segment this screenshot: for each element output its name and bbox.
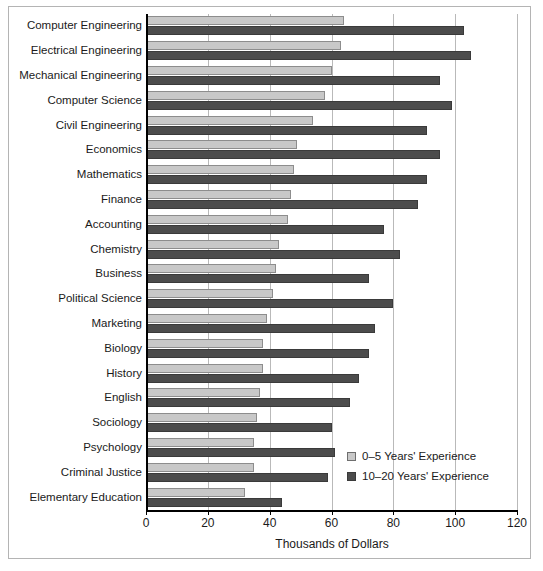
gridline (393, 14, 394, 510)
bar-10-20-years (146, 51, 471, 60)
legend-item: 10–20 Years' Experience (347, 466, 517, 486)
bar-10-20-years (146, 225, 384, 234)
bar-10-20-years (146, 250, 400, 259)
y-axis-category-label: Biology (0, 342, 142, 354)
bar-10-20-years (146, 274, 369, 283)
y-axis-category-label: Finance (0, 193, 142, 205)
bar-0-5-years (146, 339, 263, 348)
y-axis-line (146, 14, 148, 511)
bar-row (146, 165, 517, 185)
x-tick-label: 100 (445, 516, 465, 530)
bar-row (146, 413, 517, 433)
tick-mark (208, 510, 209, 515)
tick-mark (393, 510, 394, 515)
bar-row (146, 240, 517, 260)
x-tick-label: 40 (263, 516, 276, 530)
bar-0-5-years (146, 463, 254, 472)
gridline (517, 14, 518, 510)
bar-row (146, 140, 517, 160)
plot-area (146, 14, 517, 510)
bar-0-5-years (146, 488, 245, 497)
gridline (455, 14, 456, 510)
y-axis-category-label: Mathematics (0, 168, 142, 180)
bar-10-20-years (146, 175, 427, 184)
y-axis-category-label: Civil Engineering (0, 119, 142, 131)
bar-0-5-years (146, 240, 279, 249)
bar-0-5-years (146, 41, 341, 50)
bar-10-20-years (146, 423, 332, 432)
bar-10-20-years (146, 374, 359, 383)
y-axis-category-label: Computer Science (0, 94, 142, 106)
y-axis-category-label: Chemistry (0, 243, 142, 255)
tick-mark (332, 510, 333, 515)
bar-0-5-years (146, 314, 267, 323)
y-axis-category-label: Economics (0, 143, 142, 155)
x-axis-tick-labels: 020406080100120 (0, 516, 543, 532)
bar-0-5-years (146, 91, 325, 100)
bar-10-20-years (146, 324, 375, 333)
bar-10-20-years (146, 101, 452, 110)
bar-10-20-years (146, 398, 350, 407)
y-axis-category-label: Computer Engineering (0, 19, 142, 31)
bar-0-5-years (146, 215, 288, 224)
legend-swatch-dark-icon (347, 472, 356, 481)
x-tick-label: 20 (201, 516, 214, 530)
y-axis-category-label: History (0, 367, 142, 379)
bar-row (146, 41, 517, 61)
y-axis-category-label: Marketing (0, 317, 142, 329)
bar-0-5-years (146, 264, 276, 273)
gridline (270, 14, 271, 510)
x-tick-label: 0 (143, 516, 150, 530)
bar-10-20-years (146, 498, 282, 507)
bar-row (146, 264, 517, 284)
bar-row (146, 91, 517, 111)
bar-row (146, 388, 517, 408)
bar-0-5-years (146, 190, 291, 199)
x-tick-label: 120 (507, 516, 527, 530)
bar-0-5-years (146, 66, 332, 75)
salary-by-major-bar-chart: Computer EngineeringElectrical Engineeri… (0, 0, 543, 571)
bar-0-5-years (146, 413, 257, 422)
bar-row (146, 314, 517, 334)
bar-10-20-years (146, 150, 440, 159)
bar-10-20-years (146, 299, 393, 308)
y-axis-category-label: Electrical Engineering (0, 44, 142, 56)
bar-10-20-years (146, 26, 464, 35)
bar-row (146, 488, 517, 508)
y-axis-category-label: Elementary Education (0, 491, 142, 503)
bar-0-5-years (146, 438, 254, 447)
y-axis-category-label: Criminal Justice (0, 466, 142, 478)
bar-row (146, 289, 517, 309)
legend-swatch-light-icon (347, 452, 356, 461)
bar-0-5-years (146, 289, 273, 298)
bar-10-20-years (146, 200, 418, 209)
bar-row (146, 116, 517, 136)
bar-10-20-years (146, 76, 440, 85)
y-axis-category-labels: Computer EngineeringElectrical Engineeri… (0, 14, 142, 510)
bar-10-20-years (146, 349, 369, 358)
y-axis-category-label: Psychology (0, 441, 142, 453)
bar-10-20-years (146, 126, 427, 135)
chart-legend: 0–5 Years' Experience10–20 Years' Experi… (347, 446, 517, 486)
bar-0-5-years (146, 388, 260, 397)
tick-mark (455, 510, 456, 515)
y-axis-category-label: Business (0, 267, 142, 279)
bar-10-20-years (146, 473, 328, 482)
bar-0-5-years (146, 116, 313, 125)
tick-mark (146, 510, 147, 515)
gridline (332, 14, 333, 510)
bar-row (146, 215, 517, 235)
bar-row (146, 190, 517, 210)
x-axis-title: Thousands of Dollars (146, 537, 518, 551)
bar-0-5-years (146, 165, 294, 174)
tick-mark (517, 510, 518, 515)
y-axis-category-label: Accounting (0, 218, 142, 230)
gridline (208, 14, 209, 510)
legend-label: 10–20 Years' Experience (362, 470, 489, 482)
x-tick-label: 80 (387, 516, 400, 530)
y-axis-category-label: English (0, 391, 142, 403)
bar-0-5-years (146, 140, 297, 149)
y-axis-category-label: Mechanical Engineering (0, 69, 142, 81)
bar-10-20-years (146, 448, 335, 457)
y-axis-category-label: Political Science (0, 292, 142, 304)
